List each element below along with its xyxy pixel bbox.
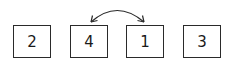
box-3: 3: [183, 25, 221, 58]
box-2: 2: [13, 25, 51, 58]
box-label: 4: [84, 33, 94, 51]
box-label: 2: [27, 33, 37, 51]
box-1: 1: [126, 25, 164, 58]
box-label: 3: [197, 33, 207, 51]
box-label: 1: [140, 33, 150, 51]
box-4: 4: [70, 25, 108, 58]
